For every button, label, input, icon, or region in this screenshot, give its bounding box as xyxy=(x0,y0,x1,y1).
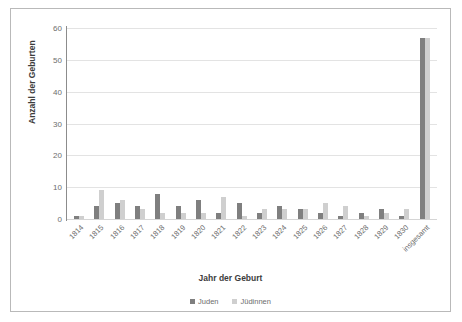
y-axis-tick-label: 40 xyxy=(53,87,62,96)
x-axis-tick: 1824 xyxy=(272,221,292,267)
bar[interactable] xyxy=(120,200,125,219)
legend-swatch-icon xyxy=(190,299,195,304)
legend-item[interactable]: Juden xyxy=(190,297,218,306)
legend-label: Juden xyxy=(198,297,218,306)
bar-group xyxy=(333,28,353,219)
x-axis-tick: 1814 xyxy=(69,221,89,267)
bar-group xyxy=(374,28,394,219)
y-axis-tick-label: 30 xyxy=(53,119,62,128)
bar-group xyxy=(415,28,435,219)
x-axis-tick-label: 1826 xyxy=(311,223,329,241)
x-axis-tick-label: 1823 xyxy=(250,223,268,241)
bar[interactable] xyxy=(201,213,206,219)
bar[interactable] xyxy=(323,203,328,219)
y-axis-tick-label: 10 xyxy=(53,183,62,192)
bar-group xyxy=(354,28,374,219)
bar[interactable] xyxy=(262,209,267,219)
legend-item[interactable]: Jüdinnen xyxy=(232,297,270,306)
bar-group xyxy=(69,28,89,219)
chart-container: Anzahl der Geburten 0102030405060 181418… xyxy=(10,8,451,312)
x-axis-tick: 1817 xyxy=(130,221,150,267)
x-axis-tick: 1822 xyxy=(232,221,252,267)
bar-group xyxy=(293,28,313,219)
bar[interactable] xyxy=(303,209,308,219)
bar[interactable] xyxy=(242,216,247,219)
y-axis-tick-label: 60 xyxy=(53,24,62,33)
legend-label: Jüdinnen xyxy=(240,297,270,306)
x-axis-tick: 1825 xyxy=(293,221,313,267)
x-axis-tick: 1826 xyxy=(313,221,333,267)
bar-group xyxy=(252,28,272,219)
x-axis-tick: 1827 xyxy=(333,221,353,267)
x-axis-tick: 1815 xyxy=(89,221,109,267)
x-axis-tick-label: 1819 xyxy=(169,223,187,241)
bar[interactable] xyxy=(425,38,430,219)
x-axis-tick-label: 1816 xyxy=(108,223,126,241)
x-axis-tick-label: 1827 xyxy=(332,223,350,241)
x-axis-tick-label: 1815 xyxy=(88,223,106,241)
bar[interactable] xyxy=(364,216,369,219)
gridline xyxy=(67,219,437,220)
bar-group xyxy=(191,28,211,219)
bar[interactable] xyxy=(384,213,389,219)
bar[interactable] xyxy=(343,206,348,219)
bar[interactable] xyxy=(140,209,145,219)
bar[interactable] xyxy=(79,216,84,219)
x-axis-tick-label: 1820 xyxy=(189,223,207,241)
x-axis-title: Jahr der Geburt xyxy=(11,273,450,283)
x-axis-tick-label: 1821 xyxy=(210,223,228,241)
x-axis-tick-label: 1828 xyxy=(352,223,370,241)
x-axis-tick: 1820 xyxy=(191,221,211,267)
bar-group xyxy=(110,28,130,219)
x-axis-tick-label: 1814 xyxy=(67,223,85,241)
x-axis-tick-label: 1825 xyxy=(291,223,309,241)
bar[interactable] xyxy=(404,209,409,219)
y-axis-tick-label: 50 xyxy=(53,55,62,64)
x-axis-ticks: 1814181518161817181818191820182118221823… xyxy=(67,221,437,267)
bar-groups xyxy=(67,28,437,219)
plot-area: 0102030405060 xyxy=(67,28,437,219)
legend-swatch-icon xyxy=(232,299,237,304)
bar-group xyxy=(211,28,231,219)
x-axis-tick: 1819 xyxy=(171,221,191,267)
y-axis-tick-label: 20 xyxy=(53,151,62,160)
x-axis-tick-label: 1818 xyxy=(149,223,167,241)
bar[interactable] xyxy=(221,197,226,219)
x-axis-tick: 1818 xyxy=(150,221,170,267)
x-axis-tick: 1828 xyxy=(354,221,374,267)
x-axis-tick-label: 1817 xyxy=(128,223,146,241)
bar-group xyxy=(313,28,333,219)
bar-group xyxy=(394,28,414,219)
x-axis-tick-label: 1824 xyxy=(271,223,289,241)
bar[interactable] xyxy=(282,209,287,219)
x-axis-tick: 1829 xyxy=(374,221,394,267)
bar-group xyxy=(150,28,170,219)
bar[interactable] xyxy=(181,213,186,219)
bar[interactable] xyxy=(99,190,104,219)
bar-group xyxy=(171,28,191,219)
x-axis-tick: 1821 xyxy=(211,221,231,267)
bar-group xyxy=(232,28,252,219)
x-axis-tick: insgesamt xyxy=(415,221,435,267)
x-axis-tick: 1816 xyxy=(110,221,130,267)
x-axis-tick-label: 1822 xyxy=(230,223,248,241)
x-axis-tick: 1823 xyxy=(252,221,272,267)
y-axis-title: Anzahl der Geburten xyxy=(27,40,37,124)
bar-group xyxy=(89,28,109,219)
bar-group xyxy=(272,28,292,219)
x-axis-tick-label: 1829 xyxy=(372,223,390,241)
bar[interactable] xyxy=(160,213,165,219)
bar-group xyxy=(130,28,150,219)
chart-legend: JudenJüdinnen xyxy=(11,297,450,306)
y-axis-tick-label: 0 xyxy=(58,215,62,224)
